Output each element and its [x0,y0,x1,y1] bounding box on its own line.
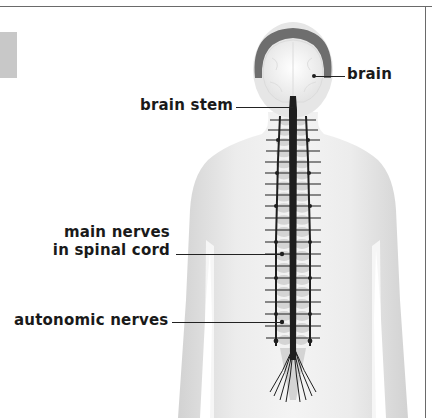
body-nervous-system-illustration [0,0,439,418]
label-brain: brain [347,66,392,83]
label-main-nerves-line2: in spinal cord [36,242,170,259]
label-main-nerves-line1: main nerves [56,224,170,241]
autonomic-nerves-leader-line [172,322,282,323]
label-autonomic-nerves: autonomic nerves [14,312,168,329]
label-brain-stem: brain stem [140,97,233,114]
main-nerves-leader-line [176,254,282,255]
brain-stem-leader-line [236,107,293,108]
brain-leader-line [315,76,345,77]
